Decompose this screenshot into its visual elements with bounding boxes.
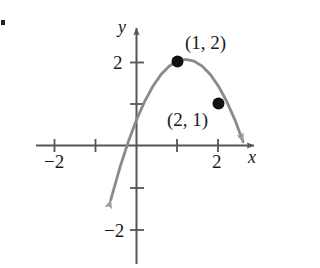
y-axis-name: y [118,18,126,36]
data-point-1-2 [172,56,184,68]
data-point-2-1 [213,98,225,110]
point-label-1-2: (1, 2) [185,33,226,52]
y-axis-label-neg2: −2 [104,221,124,240]
y-axis-label-pos2: 2 [113,53,123,72]
point-label-2-1: (2, 1) [167,110,208,129]
x-axis-label-neg2: −2 [44,152,64,171]
x-axis-label-pos2: 2 [212,152,222,171]
x-axis-name: x [248,148,256,166]
